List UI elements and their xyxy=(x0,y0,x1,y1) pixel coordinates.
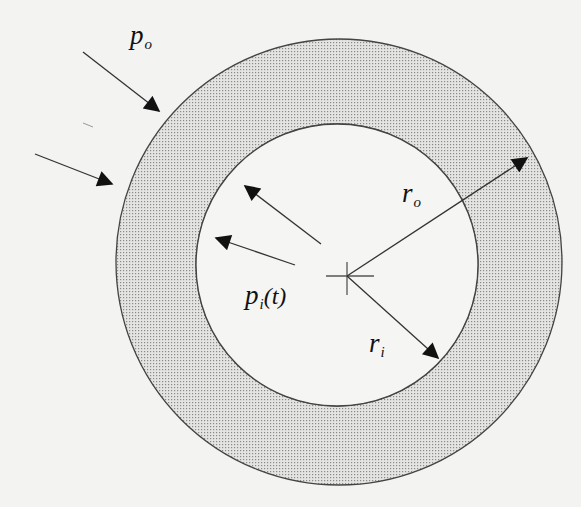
inner-radius-label: ri xyxy=(369,330,385,360)
inner-radius-subscript: i xyxy=(381,344,385,360)
inner-radius-symbol: r xyxy=(369,328,380,358)
inner-bore xyxy=(196,124,478,406)
inner-pressure-argument: (t) xyxy=(264,283,287,309)
outer-pressure-label: po xyxy=(130,22,152,52)
diagram-canvas: po pi(t) ro ri xyxy=(0,0,581,507)
inner-pressure-symbol: p xyxy=(245,280,259,310)
outer-pressure-subscript: o xyxy=(145,36,153,52)
outer-pressure-symbol: p xyxy=(130,20,144,50)
stray-mark xyxy=(83,123,93,127)
outer-radius-subscript: o xyxy=(414,194,422,210)
outer-pressure-arrow-icon xyxy=(35,154,112,184)
cylinder-diagram xyxy=(0,0,581,507)
outer-radius-label: ro xyxy=(402,180,421,210)
outer-pressure-arrow-icon xyxy=(83,52,159,111)
outer-radius-symbol: r xyxy=(402,178,413,208)
inner-pressure-label: pi(t) xyxy=(245,282,286,312)
